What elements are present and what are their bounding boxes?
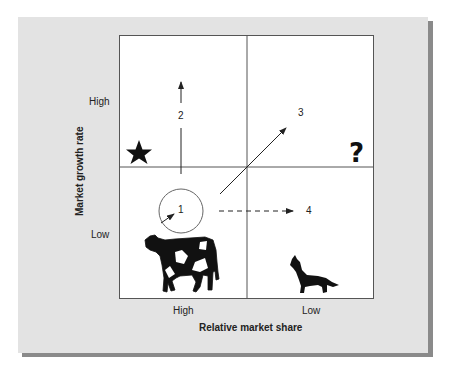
dog-icon bbox=[290, 255, 339, 293]
x-high-label: High bbox=[173, 305, 194, 316]
y-high-label: High bbox=[89, 96, 110, 107]
arrow-3 bbox=[220, 128, 286, 194]
x-low-label: Low bbox=[302, 305, 320, 316]
star-icon bbox=[126, 140, 152, 164]
matrix-drawing: ? bbox=[0, 0, 452, 376]
arrow-2-label: 2 bbox=[178, 110, 184, 121]
arrow-1-label: 1 bbox=[178, 204, 184, 215]
y-axis-title: Market growth rate bbox=[74, 127, 85, 216]
arrow-3-label: 3 bbox=[298, 107, 304, 118]
y-low-label: Low bbox=[91, 229, 109, 240]
arrow-4-label: 4 bbox=[306, 205, 312, 216]
x-axis-title: Relative market share bbox=[199, 322, 302, 333]
cow-icon bbox=[145, 235, 219, 292]
question-mark-icon: ? bbox=[349, 138, 364, 168]
